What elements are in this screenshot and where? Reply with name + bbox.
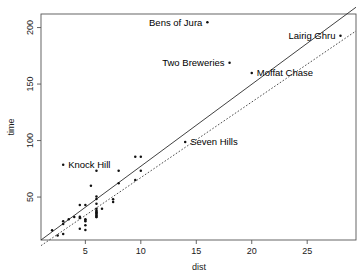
y-tick-label: 50 <box>25 192 35 202</box>
point-label: Seven Hills <box>190 136 238 147</box>
data-point <box>84 224 87 227</box>
data-point <box>140 155 143 158</box>
y-axis-ticks <box>37 28 41 198</box>
data-point <box>117 170 120 173</box>
data-point <box>79 227 82 230</box>
y-axis-tick-labels: 50100150200 <box>25 20 35 202</box>
data-point <box>67 218 70 221</box>
scatter-plot-figure: 510152025 50100150200 Bens of JuraLairig… <box>0 0 364 279</box>
data-point <box>62 233 65 236</box>
data-point <box>95 195 98 198</box>
data-point <box>339 35 342 38</box>
data-point <box>95 211 98 214</box>
y-tick-label: 150 <box>25 77 35 92</box>
x-tick-label: 5 <box>83 246 88 256</box>
data-point <box>112 198 115 201</box>
least-squares-fit <box>41 7 356 240</box>
point-label: Lairig Ghru <box>288 30 335 41</box>
data-point <box>79 204 82 207</box>
data-point <box>140 170 143 173</box>
plot-canvas: 510152025 50100150200 Bens of JuraLairig… <box>0 0 364 279</box>
data-point <box>62 163 65 166</box>
data-point <box>51 229 54 232</box>
data-point <box>95 170 98 173</box>
data-point-labels: Bens of JuraLairig GhruTwo BreweriesMoff… <box>68 17 335 170</box>
data-point <box>62 223 65 226</box>
data-point <box>134 179 137 182</box>
data-point <box>90 185 93 188</box>
data-point <box>84 229 87 232</box>
point-label: Knock Hill <box>68 159 110 170</box>
y-tick-label: 100 <box>25 133 35 148</box>
x-axis-tick-labels: 510152025 <box>83 246 312 256</box>
data-point <box>228 62 231 65</box>
x-tick-label: 10 <box>136 246 146 256</box>
data-point <box>56 234 59 237</box>
x-axis-title: dist <box>192 262 207 272</box>
data-point <box>117 182 120 185</box>
data-point <box>206 21 209 24</box>
x-tick-label: 15 <box>191 246 201 256</box>
data-points <box>51 21 342 237</box>
data-point <box>79 216 82 219</box>
x-tick-label: 20 <box>247 246 257 256</box>
y-tick-label: 200 <box>25 20 35 35</box>
data-point <box>184 141 187 144</box>
data-point <box>250 72 253 75</box>
data-point <box>84 204 87 207</box>
plot-frame <box>41 14 356 240</box>
data-point <box>84 219 87 222</box>
point-label: Moffat Chase <box>257 67 313 78</box>
data-point <box>101 207 104 210</box>
data-point <box>95 198 98 201</box>
data-point <box>95 216 98 219</box>
x-axis-ticks <box>85 240 307 244</box>
regression-lines <box>41 7 356 245</box>
data-point <box>62 220 65 223</box>
plot-box <box>41 14 356 240</box>
y-axis-title: time <box>6 118 16 135</box>
data-point <box>134 156 137 159</box>
x-tick-label: 25 <box>302 246 312 256</box>
data-point <box>73 216 76 219</box>
data-point <box>112 201 115 204</box>
point-label: Bens of Jura <box>149 17 203 28</box>
data-point <box>95 202 98 205</box>
point-label: Two Breweries <box>162 57 225 68</box>
